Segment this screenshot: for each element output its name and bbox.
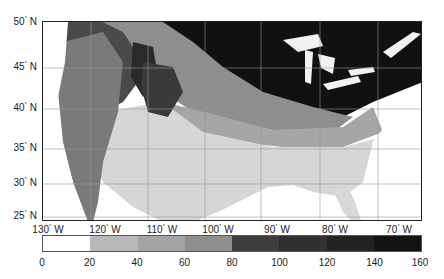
colorbar-tick-120: 120 xyxy=(319,257,336,268)
colorbar-segment-0-20 xyxy=(43,236,90,251)
lon-label-80w: 80° W xyxy=(322,224,348,235)
lon-label-70w: 70° W xyxy=(386,224,412,235)
lat-label-40n: 40° N xyxy=(13,102,37,113)
lon-label-110w: 110° W xyxy=(147,224,178,235)
lat-label-35n: 35° N xyxy=(13,142,37,153)
colorbar-segment-120-140 xyxy=(327,236,374,251)
lon-label-100w: 100° W xyxy=(202,224,233,235)
lat-label-45n: 45° N xyxy=(13,61,37,72)
colorbar-tick-140: 140 xyxy=(366,257,383,268)
colorbar-segment-80-100 xyxy=(232,236,279,251)
lat-label-25n: 25° N xyxy=(13,210,37,221)
colorbar-tick-60: 60 xyxy=(179,257,190,268)
us-map-raster xyxy=(43,22,422,221)
colorbar-segment-100-120 xyxy=(279,236,326,251)
colorbar-segment-60-80 xyxy=(185,236,232,251)
lat-label-50n: 50° N xyxy=(13,16,37,27)
colorbar xyxy=(42,235,422,252)
colorbar-tick-80: 80 xyxy=(226,257,237,268)
lon-label-130w: 130° W xyxy=(32,224,63,235)
map-frame xyxy=(42,21,422,221)
colorbar-tick-20: 20 xyxy=(84,257,95,268)
lat-label-30n: 30° N xyxy=(13,177,37,188)
colorbar-segment-20-40 xyxy=(90,236,137,251)
lon-label-120w: 120° W xyxy=(89,224,120,235)
colorbar-tick-40: 40 xyxy=(131,257,142,268)
colorbar-tick-100: 100 xyxy=(271,257,288,268)
colorbar-segment-40-60 xyxy=(138,236,185,251)
colorbar-segment-140-160 xyxy=(374,236,421,251)
lon-label-90w: 90° W xyxy=(264,224,290,235)
colorbar-tick-160: 160 xyxy=(412,257,429,268)
colorbar-tick-0: 0 xyxy=(39,257,45,268)
